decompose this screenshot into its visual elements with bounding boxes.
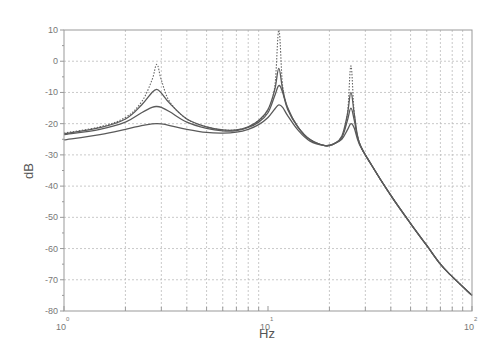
x-axis-label: Hz [259,326,275,341]
bode-magnitude-chart: 100-10-20-30-40-50-60-70-80100101102 Hz … [0,0,501,361]
axis-ticks: 100-10-20-30-40-50-60-70-80100101102 [45,25,478,332]
y-tick-label: -20 [45,119,58,129]
y-tick-label: 10 [48,25,58,35]
x-tick-exponent: 1 [270,316,274,322]
y-tick-label: 0 [53,56,58,66]
y-tick-label: -70 [45,275,58,285]
y-tick-label: -30 [45,150,58,160]
y-tick-label: -50 [45,212,58,222]
y-tick-label: -60 [45,244,58,254]
grid-lines [64,30,472,311]
x-tick-exponent: 0 [66,316,70,322]
y-tick-label: -40 [45,181,58,191]
x-tick-label: 10 [56,322,66,332]
x-tick-exponent: 2 [474,316,478,322]
y-tick-label: -10 [45,87,58,97]
y-axis-label: dB [21,163,36,179]
x-tick-label: 10 [464,322,474,332]
y-tick-label: -80 [45,306,58,316]
